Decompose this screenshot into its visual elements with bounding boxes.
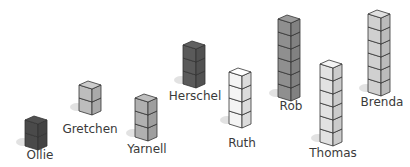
label-thomas: Thomas	[309, 146, 357, 160]
label-rob: Rob	[280, 99, 303, 113]
tower-ruth	[220, 68, 251, 128]
tower-yarnell	[126, 94, 157, 141]
label-ruth: Ruth	[228, 136, 256, 150]
tower-rob	[269, 15, 300, 101]
tower-ollie	[16, 116, 47, 150]
label-brenda: Brenda	[361, 95, 404, 109]
tower-gretchen	[70, 81, 101, 115]
cube-towers-diagram	[0, 0, 410, 167]
tower-brenda	[359, 10, 390, 96]
tower-thomas	[311, 60, 342, 146]
label-gretchen: Gretchen	[62, 122, 117, 136]
label-ollie: Ollie	[27, 148, 54, 162]
tower-herschel	[174, 41, 205, 88]
label-herschel: Herschel	[169, 89, 222, 103]
label-yarnell: Yarnell	[127, 142, 166, 156]
